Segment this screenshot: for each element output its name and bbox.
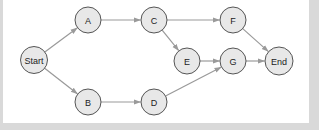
node-label: A [85,16,91,26]
node-label: B [85,98,91,108]
node-label: End [271,57,287,67]
edge-start-to-a [45,28,77,52]
node-label: Start [24,56,44,66]
node-e[interactable]: E [174,48,200,74]
node-start[interactable]: Start [21,47,48,74]
node-label: G [229,57,236,67]
node-label: D [151,98,158,108]
node-d[interactable]: D [141,89,167,115]
edge-f-to-end [243,29,268,52]
node-b[interactable]: B [75,89,101,115]
node-end[interactable]: End [265,47,293,75]
node-label: F [230,16,236,26]
flow-graph: StartABCDEFGEnd [0,0,319,130]
node-f[interactable]: F [220,7,246,33]
node-label: E [184,57,190,67]
node-a[interactable]: A [75,7,101,33]
edge-start-to-b [45,68,78,93]
edge-c-to-e [162,30,178,50]
node-c[interactable]: C [141,7,167,33]
node-g[interactable]: G [220,48,246,74]
node-label: C [151,16,158,26]
